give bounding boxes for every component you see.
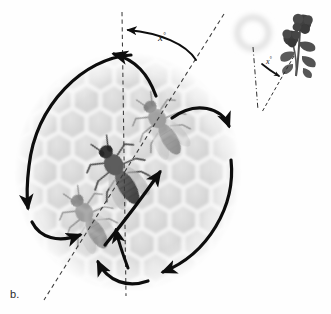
inset-vertical-reference-line (253, 47, 258, 110)
panel-label: b. (10, 288, 20, 300)
waggle-dance-figure: x° (0, 0, 331, 314)
inset-angle-arrow (262, 64, 279, 76)
angle-label-inset: x° (265, 56, 273, 66)
inset-layer: x° (0, 0, 331, 314)
flower-cluster (280, 14, 316, 78)
